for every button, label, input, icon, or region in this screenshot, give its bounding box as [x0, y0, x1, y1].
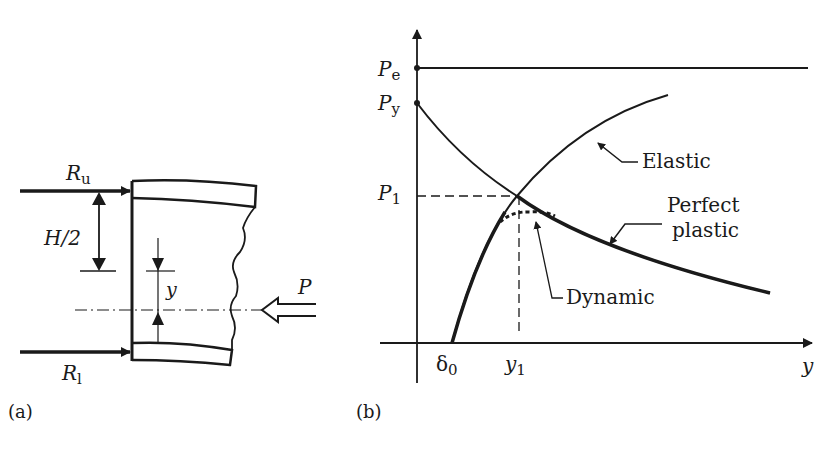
pe-label: Pe [377, 57, 400, 84]
dim-arrow-up-icon [92, 192, 106, 205]
y-axis-label: y [801, 354, 814, 378]
perfect-plastic-leader [610, 224, 662, 244]
ru-label: Ru [65, 161, 91, 188]
dim-arrow-down-icon [92, 258, 106, 271]
y1-label: y1 [504, 352, 526, 379]
panel-a: Ru Rl H/2 y P (a) [8, 161, 316, 422]
perfect-plastic-label-2: plastic [672, 218, 739, 242]
elastic-curve-bold [452, 212, 505, 343]
load-arrow-icon [262, 298, 316, 322]
offset-arrow-down-icon [152, 258, 164, 271]
offset-arrow-up-icon [152, 312, 164, 325]
panel-b: Pe Py P1 δ0 y1 y Elastic Perfect plastic… [356, 30, 814, 422]
load-label: P [297, 275, 312, 299]
py-label: Py [377, 91, 400, 118]
elastic-label: Elastic [642, 149, 711, 173]
half-height-label: H/2 [43, 226, 81, 250]
dynamic-leader [536, 222, 563, 298]
perfect-plastic-label-1: Perfect [667, 193, 739, 217]
figure-canvas: Ru Rl H/2 y P (a) Pe Py [0, 0, 836, 449]
break-line [231, 207, 255, 350]
offset-label: y [165, 278, 177, 300]
pe-point [414, 65, 420, 71]
rl-label: Rl [61, 361, 82, 388]
delta0-label: δ0 [436, 352, 458, 379]
panel-b-caption: (b) [356, 401, 382, 422]
top-flange [132, 180, 256, 207]
bottom-flange [132, 343, 232, 365]
p1-label: P1 [377, 181, 401, 208]
dynamic-label: Dynamic [566, 285, 655, 309]
elastic-leader [598, 143, 638, 162]
panel-a-caption: (a) [8, 401, 33, 422]
